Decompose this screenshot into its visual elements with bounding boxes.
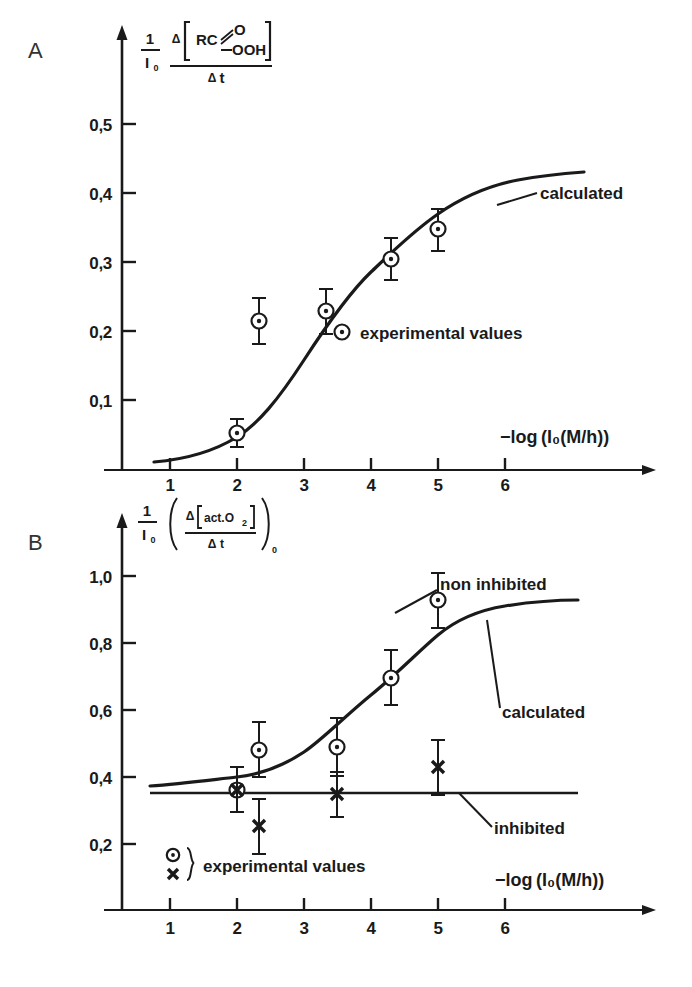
- panel-a-ytick-0: 0,5: [89, 116, 112, 135]
- data-point: [252, 722, 267, 777]
- panel-b-ylabel-denom-delta: Δ: [208, 537, 217, 551]
- data-point: [431, 209, 446, 251]
- panel-b-ylabel-one: 1: [143, 502, 151, 519]
- panel-a-x-axis: [104, 465, 656, 475]
- panel-a-ytick-1: 0,4: [89, 185, 113, 204]
- panel-b-x-axis-label: −log (I₀(M/h)): [495, 870, 604, 890]
- data-point-cross: [252, 799, 266, 854]
- panel-b-non-inhibited-label: non inhibited: [440, 575, 547, 594]
- panel-a-ytick-2: 0,3: [89, 254, 112, 273]
- panel-b-annotation-non-inhibited: non inhibited: [395, 575, 547, 613]
- panel-b-ytick-0: 1,0: [89, 568, 112, 587]
- panel-b-y-axis-label: 1 I 0 Δ act.O 2 Δ t 0: [138, 498, 277, 555]
- panel-a-y-axis-label: 1 I 0 Δ RC O OOH Δ t: [141, 21, 272, 86]
- panel-a-y-ticks: 0,5 0,4 0,3 0,2 0,1: [89, 116, 136, 411]
- panel-b: B 1,0 0,8 0,6 0,4 0,2: [0, 490, 692, 987]
- data-point: [384, 238, 399, 280]
- panel-b-ylabel-delta: Δ: [186, 509, 195, 523]
- panel-b-xtick-0: 1: [165, 919, 174, 938]
- panel-b-x-axis: [104, 905, 656, 915]
- panel-b-y-ticks: 1,0 0,8 0,6 0,4 0,2: [89, 568, 136, 855]
- panel-a-ylabel-ooh: OOH: [232, 41, 266, 58]
- data-point: [384, 650, 399, 705]
- panel-b-noninhibited-curve: [150, 600, 578, 786]
- panel-b-ytick-4: 0,2: [89, 836, 112, 855]
- panel-b-ylabel-species: act.O: [204, 511, 234, 525]
- panel-a-ylabel-delta: Δ: [172, 32, 181, 46]
- data-point-33: [319, 289, 334, 334]
- data-point-cross: [330, 772, 344, 817]
- panel-b-y-axis: [117, 513, 128, 910]
- panel-b-ylabel-denom-t: t: [220, 537, 224, 551]
- data-point: [230, 419, 245, 447]
- panel-b-xtick-1: 2: [232, 919, 241, 938]
- panel-b-ylabel-species-sub: 2: [242, 518, 247, 528]
- panel-a-ylabel-denom-t: t: [220, 69, 225, 86]
- panel-b-annotation-inhibited: inhibited: [459, 793, 565, 838]
- legend-brace: [187, 848, 194, 880]
- panel-a: A 0,5 0,4 0,3 0,2 0,1: [0, 0, 692, 492]
- figure-root: A 0,5 0,4 0,3 0,2 0,1: [0, 0, 692, 987]
- panel-b-ylabel-i0: I: [142, 526, 146, 543]
- panel-b-legend-label: experimental values: [203, 857, 366, 876]
- panel-a-ylabel-one: 1: [146, 30, 154, 47]
- panel-b-legend: experimental values: [167, 848, 366, 880]
- panel-b-ytick-3: 0,4: [89, 769, 113, 788]
- panel-b-annotation-calculated: calculated: [487, 620, 585, 722]
- panel-b-ylabel-i0-sub: 0: [150, 535, 155, 545]
- panel-a-y-axis: [117, 25, 128, 470]
- panel-b-inhibited-label: inhibited: [494, 819, 565, 838]
- panel-a-letter: A: [28, 38, 43, 63]
- panel-b-calculated-label: calculated: [502, 703, 585, 722]
- panel-a-annotation-calculated: calculated: [497, 184, 623, 205]
- panel-a-calculated-curve: [154, 172, 584, 462]
- panel-b-ytick-1: 0,8: [89, 635, 112, 654]
- data-point-cross: [431, 740, 445, 795]
- panel-a-calculated-label: calculated: [540, 184, 623, 203]
- panel-a-ylabel-i0: I: [145, 54, 149, 71]
- panel-b-ytick-2: 0,6: [89, 702, 112, 721]
- panel-b-ylabel-outer-sub: 0: [272, 545, 277, 555]
- legend-cross-icon: [168, 869, 178, 879]
- panel-b-xtick-3: 4: [366, 919, 376, 938]
- panel-a-ylabel-o: O: [234, 21, 246, 38]
- panel-b-x-ticks: 1 2 3 4 5 6: [165, 898, 509, 938]
- panel-b-xtick-4: 5: [433, 919, 442, 938]
- panel-a-ytick-4: 0,1: [89, 392, 112, 411]
- panel-a-x-ticks: 1 2 3 4 5 6: [165, 458, 509, 492]
- panel-a-ylabel-i0-sub: 0: [153, 63, 158, 73]
- data-point: [252, 298, 267, 344]
- panel-a-ylabel-rc: RC: [196, 31, 218, 48]
- panel-a-x-axis-label: −log (I₀(M/h)): [500, 427, 609, 447]
- panel-b-xtick-2: 3: [299, 919, 308, 938]
- data-point: [330, 718, 345, 776]
- panel-a-legend-label: experimental values: [360, 324, 523, 343]
- panel-b-xtick-5: 6: [500, 919, 509, 938]
- panel-a-ylabel-denom-delta: Δ: [208, 71, 217, 85]
- panel-a-legend: experimental values: [335, 324, 523, 343]
- panel-b-letter: B: [28, 530, 43, 555]
- panel-a-ytick-3: 0,2: [89, 323, 112, 342]
